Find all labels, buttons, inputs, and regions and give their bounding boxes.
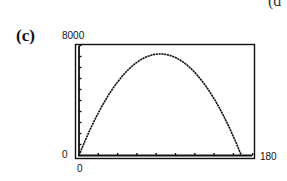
plot-area (0, 0, 287, 181)
data-curve (79, 54, 241, 156)
window-frame (76, 45, 255, 159)
